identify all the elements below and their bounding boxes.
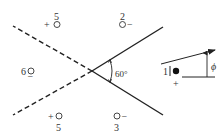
lower-dashed-extension — [13, 71, 92, 115]
image-charge-4: 5 + — [44, 11, 60, 30]
upper-dashed-extension — [13, 26, 92, 71]
charge-5-sign: + — [48, 111, 54, 122]
charge-2-index: 2 — [120, 11, 125, 22]
filled-circle-icon — [173, 68, 179, 74]
charge-1-sign: + — [173, 78, 179, 89]
charge-4-index: 5 — [54, 11, 59, 22]
charge-6-index: 6 — [21, 66, 26, 77]
image-charge-5: + 5 — [48, 111, 62, 133]
image-charge-6: 6 − — [21, 66, 34, 82]
wedge-angle-indicator — [109, 60, 113, 83]
open-circle-icon — [54, 22, 60, 28]
phi-label: ϕ — [211, 61, 216, 72]
charge-3-sign: − — [122, 111, 128, 122]
upper-conductor-plane — [92, 27, 163, 71]
charge-2-sign: − — [127, 19, 133, 30]
real-charge-1: + — [170, 66, 179, 89]
image-charge-3: − 3 — [114, 111, 128, 133]
charge-1-index: 1 — [163, 66, 168, 77]
open-circle-icon — [114, 113, 120, 119]
charge-5-index: 5 — [56, 122, 61, 133]
wedge-angle-label: 60° — [115, 69, 128, 79]
image-charge-diagram: 60° ϕ + 5 + 2 − 6 − + 5 − 3 1 — [0, 0, 223, 139]
open-circle-icon — [120, 22, 126, 28]
image-charge-2: 2 − — [120, 11, 134, 30]
charge-4-sign: + — [44, 19, 50, 30]
charge-3-index: 3 — [114, 122, 119, 133]
charge-6-sign: − — [28, 71, 34, 82]
open-circle-icon — [56, 113, 62, 119]
